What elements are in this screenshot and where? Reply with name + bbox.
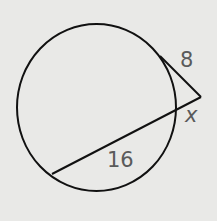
external-secant-label: x [185, 105, 197, 126]
internal-secant-label: 16 [107, 150, 134, 171]
circle [17, 24, 176, 191]
tangent-secant-diagram: 8 x 16 [0, 0, 217, 221]
tangent-length-label: 8 [180, 50, 193, 71]
